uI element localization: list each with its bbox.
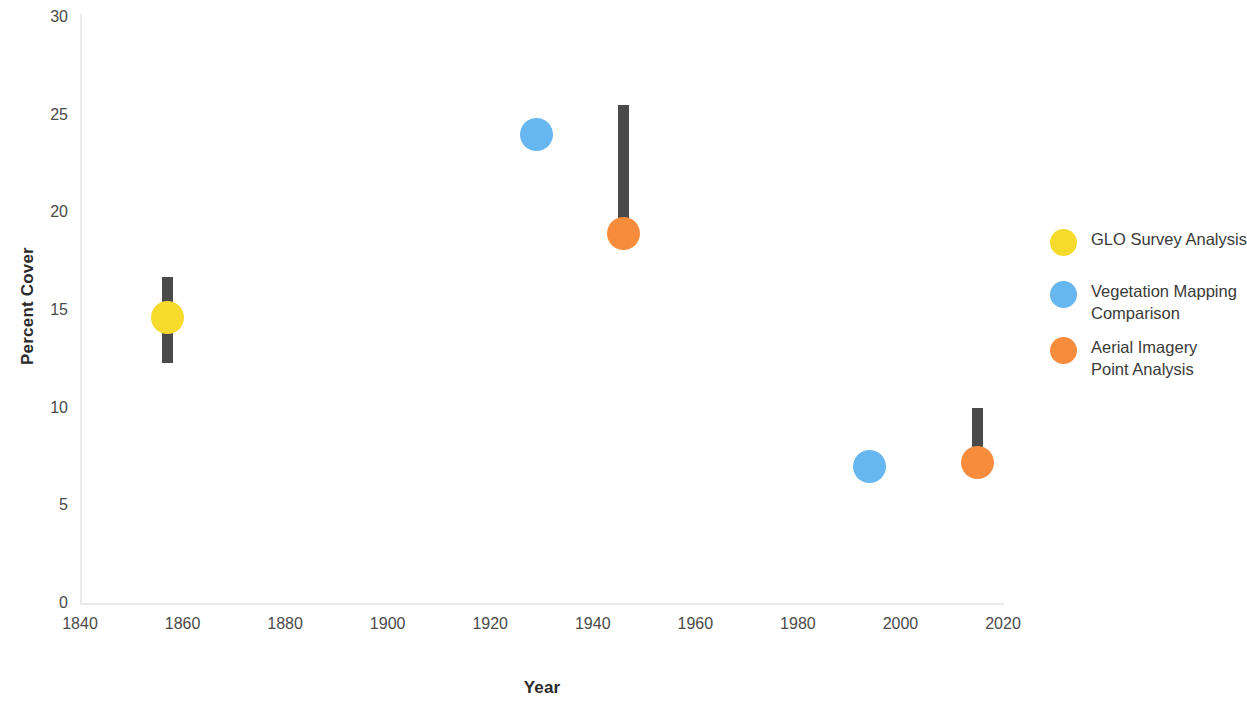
x-tick-2000: 2000 [860,616,940,632]
x-tick-1880: 1880 [245,616,325,632]
legend-item-3[interactable]: Aerial Imagery Point Analysis [1050,336,1197,380]
data-point[interactable] [607,217,640,250]
x-tick-1960: 1960 [655,616,735,632]
x-tick-1940: 1940 [553,616,633,632]
x-axis-title: Year [80,678,1004,698]
x-tick-1900: 1900 [348,616,428,632]
legend-item-1[interactable]: GLO Survey Analysis [1050,228,1247,256]
legend-swatch-icon [1050,337,1077,364]
y-tick-label: 10 [0,400,68,416]
x-tick-1840: 1840 [40,616,120,632]
y-axis-title: Percent Cover [18,216,38,396]
error-bar [618,105,629,234]
x-tick-1860: 1860 [143,616,223,632]
data-point[interactable] [520,118,553,151]
legend-swatch-icon [1050,281,1077,308]
y-tick-label: 5 [0,497,68,513]
x-axis-line [80,603,1004,605]
x-tick-2020: 2020 [963,616,1043,632]
percent-cover-scatter-chart: 051015202530 184018601880190019201940196… [0,0,1247,705]
y-tick-label: 30 [0,9,68,25]
y-axis-line [80,14,82,605]
data-point[interactable] [151,301,184,334]
legend-swatch-icon [1050,229,1077,256]
data-point[interactable] [961,446,994,479]
legend-item-2[interactable]: Vegetation Mapping Comparison [1050,280,1237,324]
y-tick-label: 25 [0,107,68,123]
y-tick-label: 0 [0,595,68,611]
legend-label: Vegetation Mapping Comparison [1091,280,1237,324]
legend-label: Aerial Imagery Point Analysis [1091,336,1197,380]
x-tick-1920: 1920 [450,616,530,632]
x-tick-1980: 1980 [758,616,838,632]
legend-label: GLO Survey Analysis [1091,228,1247,250]
data-point[interactable] [853,450,886,483]
